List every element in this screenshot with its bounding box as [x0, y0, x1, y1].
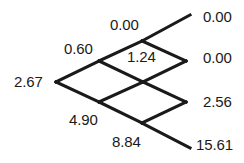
lattice-edge [143, 82, 186, 102]
node-value-ud2: 1.24 [127, 49, 156, 64]
binomial-lattice-figure: 2.67 0.60 4.90 0.00 1.24 8.84 0.00 0.00 … [0, 0, 244, 163]
lattice-edge [56, 61, 99, 82]
node-value-uuu3: 0.00 [203, 9, 232, 24]
node-value-udd3: 2.56 [203, 94, 232, 109]
node-value-up1: 0.60 [64, 41, 93, 56]
node-value-dd2: 8.84 [112, 134, 141, 149]
node-value-uu2: 0.00 [110, 17, 139, 32]
node-value-down1: 4.90 [69, 112, 98, 127]
node-value-root: 2.67 [14, 74, 43, 89]
node-value-ddd3: 15.61 [196, 137, 233, 152]
node-value-uud3: 0.00 [203, 50, 232, 65]
lattice-edge [142, 15, 190, 41]
lattice-edge [142, 102, 186, 123]
lattice-edge [99, 102, 142, 123]
lattice-edge [142, 123, 190, 148]
lattice-edge-group [56, 15, 190, 148]
lattice-edge [99, 82, 143, 102]
lattice-edge [56, 82, 99, 102]
